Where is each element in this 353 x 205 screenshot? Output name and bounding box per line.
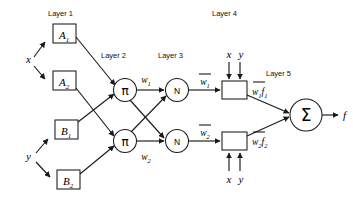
norm-node-n1[interactable]: N (166, 79, 189, 102)
pi-glyph-2: π (121, 135, 128, 149)
sum-node[interactable]: Σ (290, 99, 322, 131)
edge-box1-to-sum (247, 95, 289, 113)
output-label-f: f (343, 109, 348, 121)
defuzz-box-2[interactable] (222, 132, 247, 150)
layer-label-2: Layer 2 (101, 51, 126, 60)
n-glyph-2: N (174, 137, 180, 147)
pi-glyph-1: π (121, 84, 128, 98)
edge-label-wbar1: w1 (199, 74, 211, 89)
box1-input-label-x: x (226, 48, 232, 60)
box2-input-label-x: x (226, 173, 232, 185)
edge-label-wbar2f2-text: w2f2 (252, 137, 268, 149)
sigma-glyph: Σ (301, 105, 312, 125)
product-node-pi2[interactable]: π (114, 130, 137, 153)
membership-node-b2[interactable]: B2 (57, 170, 80, 190)
edge-x-to-a1 (34, 42, 45, 57)
edge-label-w1: w1 (141, 75, 151, 87)
defuzz-box-1[interactable] (222, 81, 247, 99)
layer-label-3: Layer 3 (158, 51, 183, 60)
layer-label-4: Layer 4 (212, 9, 237, 18)
edge-pi2-to-n1 (131, 96, 166, 132)
edge-label-w2: w2 (141, 152, 151, 164)
membership-node-a2[interactable]: A2 (53, 71, 76, 91)
product-node-pi1[interactable]: π (114, 79, 137, 102)
edge-label-wbar1f1: w1f1 (252, 82, 267, 99)
edge-label-wbar1f1-text: w1f1 (252, 87, 267, 99)
norm-node-n2[interactable]: N (166, 130, 189, 153)
edge-box2-to-sum (247, 117, 289, 136)
edge-label-wbar1-text: w1 (200, 77, 210, 89)
box1-input-label-y: y (238, 48, 244, 60)
edge-y-to-b1 (36, 139, 48, 153)
input-label-y: y (25, 150, 31, 162)
anfis-diagram-canvas: Layer 1 Layer 2 Layer 3 Layer 4 Layer 5 … (0, 0, 353, 205)
layer-label-5: Layer 5 (266, 69, 291, 78)
edge-label-wbar2f2: w2f2 (252, 132, 268, 149)
edge-y-to-b2 (36, 162, 50, 177)
box2-input-label-y: y (238, 173, 244, 185)
edge-b2-to-pi2 (80, 146, 114, 174)
membership-node-b1[interactable]: B1 (55, 120, 78, 140)
edge-a2-to-pi2 (76, 88, 114, 136)
edge-label-wbar2-text: w2 (200, 128, 210, 140)
edge-a1-to-pi1 (76, 37, 115, 85)
membership-node-a1[interactable]: A1 (53, 24, 76, 44)
anfis-architecture-svg: Layer 1 Layer 2 Layer 3 Layer 4 Layer 5 … (0, 0, 353, 205)
edge-pi1-to-n2 (130, 100, 164, 138)
edge-label-wbar2: w2 (199, 125, 211, 140)
layer-label-1: Layer 1 (48, 9, 73, 18)
edge-x-to-a2 (34, 66, 45, 79)
n-glyph-1: N (174, 86, 180, 96)
input-label-x: x (25, 53, 31, 65)
